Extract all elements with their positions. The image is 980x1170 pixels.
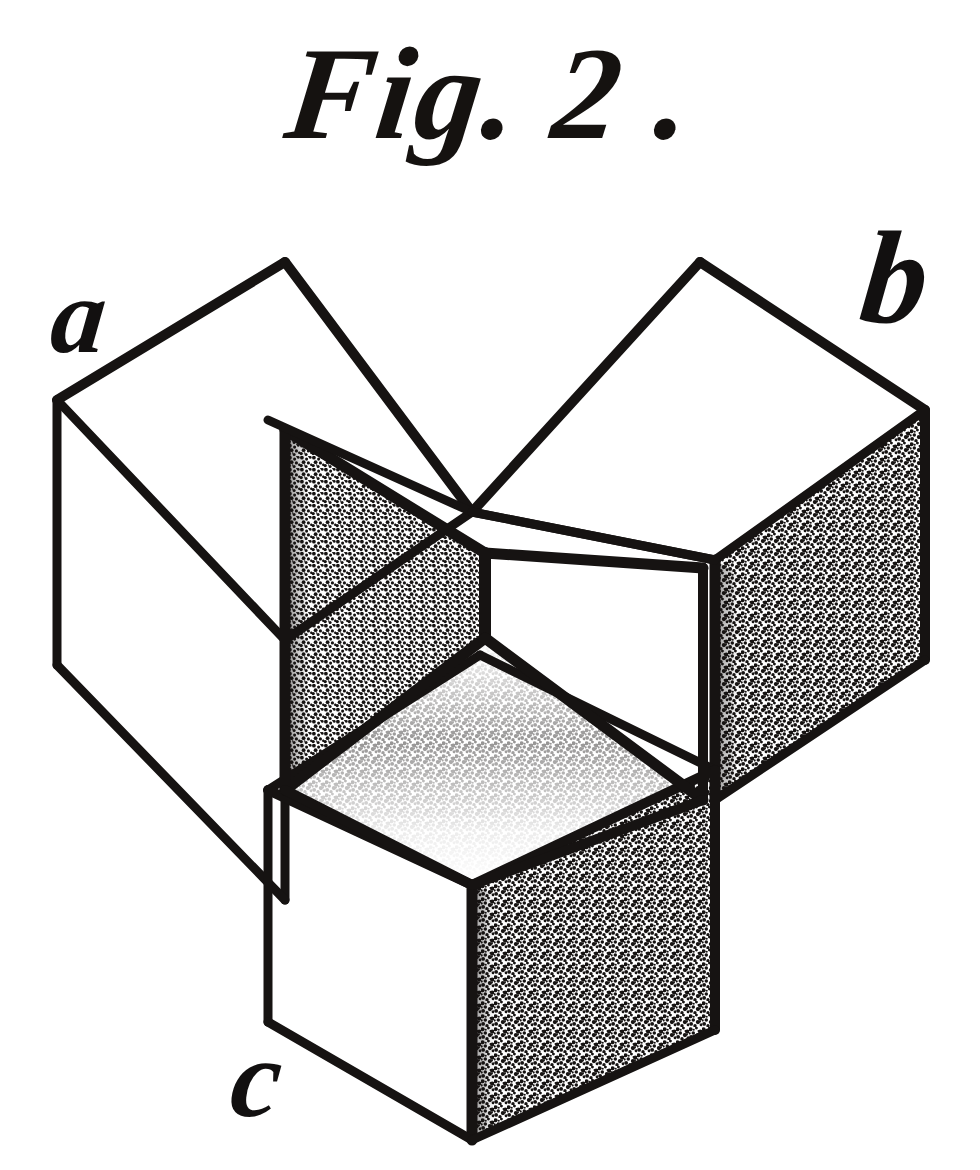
isometric-cube-diagram [0, 0, 980, 1170]
vertex-label-b: b [855, 212, 935, 344]
figure-canvas: Fig. 2 . [0, 0, 980, 1170]
vertex-label-a: a [46, 262, 111, 370]
